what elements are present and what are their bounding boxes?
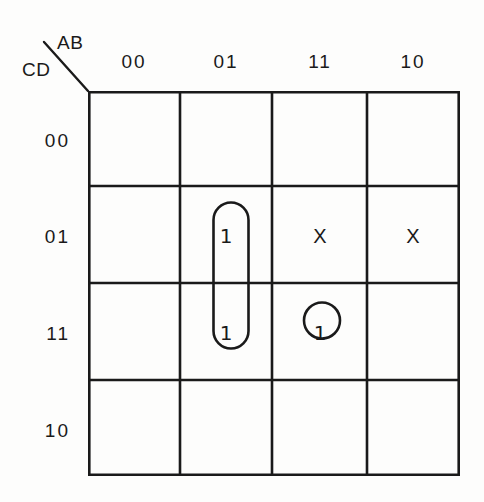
row-header-1: 01 xyxy=(14,227,70,246)
col-header-1: 01 xyxy=(180,52,272,71)
col-header-2: 11 xyxy=(274,52,366,71)
row-header-3: 10 xyxy=(14,421,70,440)
row-header-2: 11 xyxy=(14,324,70,343)
col-header-3: 10 xyxy=(367,52,459,71)
karnaugh-map-figure: AB CD 00 01 11 10 00 01 11 10 xyxy=(0,0,484,502)
axis-label-cd: CD xyxy=(22,60,50,79)
row-header-0: 00 xyxy=(14,131,70,150)
axis-label-ab: AB xyxy=(57,33,83,52)
kmap-grid xyxy=(88,91,460,476)
col-header-0: 00 xyxy=(88,52,180,71)
